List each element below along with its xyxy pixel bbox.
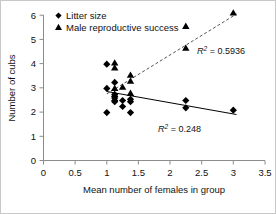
y-tick-label-1: 1 <box>31 131 36 142</box>
r2-annotation-male-reproductive-success: R2 = 0.5936 <box>197 45 245 57</box>
data-point-triangle <box>127 78 134 84</box>
y-ticks <box>40 15 44 160</box>
y-tick-label-0: 0 <box>31 155 36 166</box>
data-point-triangle <box>182 44 189 50</box>
x-tick-label-2: 1 <box>104 167 109 178</box>
x-tick-label-3: 1.5 <box>132 167 145 178</box>
data-point-triangle <box>119 84 126 90</box>
y-axis-title: Number of cubs <box>6 54 17 121</box>
r2-value-litter: = 0.248 <box>168 124 201 134</box>
data-point-diamond <box>103 61 110 68</box>
data-point-diamond <box>103 85 110 92</box>
data-point-diamond <box>182 97 189 104</box>
y-tick-label-4: 4 <box>31 58 36 69</box>
legend-label-litter-size: Litter size <box>66 10 107 21</box>
data-point-triangle <box>127 90 134 96</box>
x-tick-label-1: 0.5 <box>68 167 81 178</box>
x-ticks <box>44 161 266 165</box>
x-tick-label-4: 2 <box>167 167 172 178</box>
chart-figure: 0 1 2 3 4 5 6 0 0.5 1 1.5 2 2.5 3 <box>0 0 276 214</box>
r2-value-male: = 0.5936 <box>207 46 245 56</box>
y-tick-label-2: 2 <box>31 106 36 117</box>
trendline-litter-size <box>107 92 237 115</box>
x-tick-label-0: 0 <box>41 167 46 178</box>
y-tick-label-5: 5 <box>31 34 36 45</box>
legend-label-male-reproductive-success: Male reproductive success <box>66 22 179 33</box>
scatter-plot: 0 1 2 3 4 5 6 0 0.5 1 1.5 2 2.5 3 <box>1 1 276 214</box>
x-axis-title: Mean number of females in group <box>83 184 225 195</box>
x-tick-label-6: 3 <box>231 167 236 178</box>
chart-legend: Litter size Male reproductive success <box>55 10 179 33</box>
y-tick-label-6: 6 <box>31 10 36 21</box>
data-point-diamond <box>119 103 126 110</box>
r2-annotation-litter-size: R2 = 0.248 <box>158 123 201 135</box>
legend-diamond-icon <box>55 13 61 19</box>
data-point-triangle <box>230 9 237 15</box>
data-point-triangle <box>182 23 189 29</box>
y-tick-labels: 0 1 2 3 4 5 6 <box>31 10 36 166</box>
x-tick-label-5: 2.5 <box>195 167 208 178</box>
legend-item-male-reproductive-success: Male reproductive success <box>55 22 179 33</box>
axes <box>44 15 266 161</box>
y-tick-label-3: 3 <box>31 82 36 93</box>
legend-item-litter-size: Litter size <box>55 10 106 21</box>
x-tick-labels: 0 0.5 1 1.5 2 2.5 3 3.5 <box>41 167 272 178</box>
x-tick-label-7: 3.5 <box>258 167 271 178</box>
data-point-diamond <box>230 107 237 114</box>
data-point-diamond <box>127 109 134 116</box>
legend-triangle-icon <box>55 24 62 30</box>
data-point-diamond <box>103 109 110 116</box>
data-point-triangle <box>127 71 134 77</box>
